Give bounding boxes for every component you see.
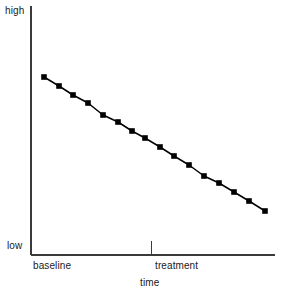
axes-group <box>31 6 275 255</box>
y-axis-label-low: low <box>7 240 22 251</box>
data-point-marker <box>142 135 148 141</box>
x-axis-label-treatment: treatment <box>155 260 198 271</box>
data-point-marker <box>246 198 252 204</box>
data-point-marker <box>171 153 177 159</box>
data-point-marker <box>186 162 192 168</box>
data-point-marker <box>70 92 76 98</box>
data-point-marker <box>157 144 163 150</box>
data-point-marker <box>262 208 268 214</box>
data-point-marker <box>100 112 106 118</box>
chart-plot-area <box>0 0 281 292</box>
x-axis-label-baseline: baseline <box>33 260 71 271</box>
data-point-marker <box>56 83 62 89</box>
data-point-marker <box>41 74 47 80</box>
y-axis-label-high: high <box>5 5 24 16</box>
data-point-marker <box>85 100 91 106</box>
data-point-marker <box>115 119 121 125</box>
chart-figure: high low baseline treatment time <box>0 0 281 292</box>
data-series-group <box>41 74 268 214</box>
data-point-marker <box>201 173 207 179</box>
data-point-marker <box>129 128 135 134</box>
data-point-marker <box>216 180 222 186</box>
x-axis-title: time <box>140 277 159 288</box>
data-point-marker <box>231 189 237 195</box>
